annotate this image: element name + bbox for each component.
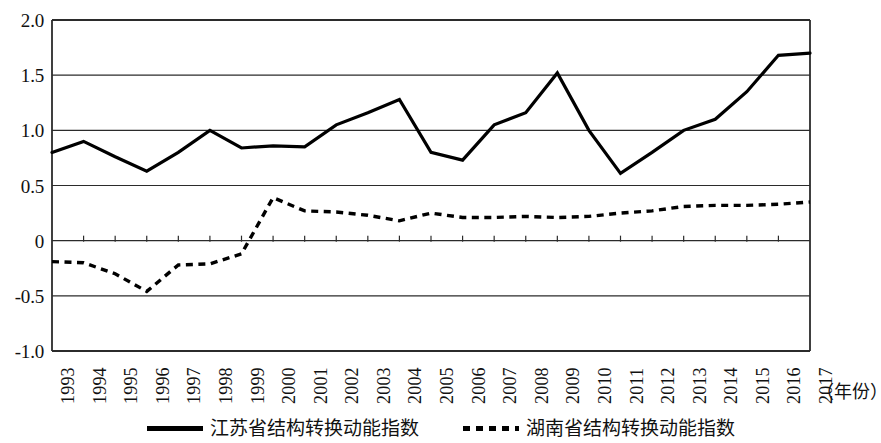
x-tick-label-2015: 2015 <box>754 367 772 404</box>
series-line-hunan <box>52 198 810 292</box>
x-tick-label-2012: 2012 <box>659 367 677 404</box>
x-tick-label-2002: 2002 <box>343 367 361 404</box>
x-tick-label-2000: 2000 <box>280 367 298 404</box>
y-tick-label-1.5: 1.5 <box>0 66 44 85</box>
x-tick-label-1997: 1997 <box>185 367 203 404</box>
x-tick-label-2008: 2008 <box>533 367 551 404</box>
legend-label-hunan: 湖南省结构转换动能指数 <box>526 419 735 438</box>
x-tick-label-1999: 1999 <box>249 367 267 404</box>
legend-line-sample-dotted <box>463 426 519 431</box>
x-tick-label-2001: 2001 <box>312 367 330 404</box>
chart-figure: 2.01.51.00.50-0.5-1.0 199319941995199619… <box>0 0 881 443</box>
chart-legend: 江苏省结构转换动能指数 湖南省结构转换动能指数 <box>0 414 881 443</box>
y-tick-label-0.5: 0.5 <box>0 177 44 196</box>
x-tick-label-2006: 2006 <box>470 367 488 404</box>
x-tick-label-2014: 2014 <box>722 367 740 404</box>
x-tick-label-2003: 2003 <box>375 367 393 404</box>
x-tick-label-2004: 2004 <box>406 367 424 404</box>
y-tick-label--0.5: -0.5 <box>0 287 44 306</box>
x-tick-label-2007: 2007 <box>501 367 519 404</box>
y-tick-label-2: 2.0 <box>0 11 44 30</box>
x-tick-label-1993: 1993 <box>59 367 77 404</box>
x-tick-label-2009: 2009 <box>564 367 582 404</box>
x-tick-label-1996: 1996 <box>154 367 172 404</box>
x-tick-label-2011: 2011 <box>628 368 646 404</box>
legend-item-hunan: 湖南省结构转换动能指数 <box>463 419 735 438</box>
series-line-jiangsu <box>52 53 810 173</box>
y-tick-label--1: -1.0 <box>0 342 44 361</box>
x-tick-label-1994: 1994 <box>91 367 109 404</box>
x-axis-unit-label: （年份） <box>816 383 881 401</box>
x-tick-label-2016: 2016 <box>785 367 803 404</box>
x-tick-label-1998: 1998 <box>217 367 235 404</box>
legend-line-sample-solid <box>147 426 203 431</box>
legend-label-jiangsu: 江苏省结构转换动能指数 <box>210 419 419 438</box>
x-tick-label-2013: 2013 <box>691 367 709 404</box>
x-tick-label-2010: 2010 <box>596 367 614 404</box>
y-tick-label-0: 0 <box>0 232 44 251</box>
legend-item-jiangsu: 江苏省结构转换动能指数 <box>147 419 419 438</box>
x-tick-label-1995: 1995 <box>122 367 140 404</box>
y-tick-label-1: 1.0 <box>0 121 44 140</box>
x-tick-label-2005: 2005 <box>438 367 456 404</box>
